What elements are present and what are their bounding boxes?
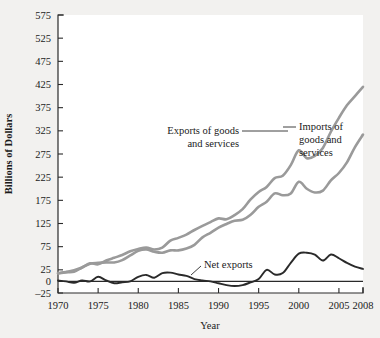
x-tick-label-1970: 1970 [48,300,69,311]
y-tick-label-275: 275 [35,149,51,160]
exports-imports-net-exports-line-chart: 57552547542537532527522517512575250–25 1… [0,0,380,338]
x-tick-label-1985: 1985 [168,300,189,311]
y-tick-label-75: 75 [41,241,52,252]
chart-figure: 57552547542537532527522517512575250–25 1… [0,0,380,338]
imports-annotation-line3: services [299,147,333,158]
y-tick-label-325: 325 [35,125,51,136]
x-tick-label-2008: 2008 [353,300,374,311]
x-tick-label-1990: 1990 [208,300,229,311]
y-tick-label-525: 525 [35,33,51,44]
x-tick-label-2005: 2005 [328,300,349,311]
y-tick-label-125: 125 [35,218,51,229]
exports-annotation-line2: and services [187,138,239,149]
x-tick-label-1975: 1975 [88,300,109,311]
y-tick-label-425: 425 [35,79,51,90]
exports-annotation-line1: Exports of goods [167,125,239,136]
x-tick-label-2000: 2000 [288,300,309,311]
imports-annotation-line1: Imports of [299,121,344,132]
net-exports-annotation: Net exports [204,259,253,270]
y-tick-label-–25: –25 [34,288,51,299]
y-tick-label-25: 25 [41,264,52,275]
y-tick-label-575: 575 [35,10,51,21]
x-tick-label-1995: 1995 [248,300,269,311]
x-axis-title: Year [200,320,220,331]
y-tick-label-475: 475 [35,56,51,67]
y-tick-label-175: 175 [35,195,51,206]
y-tick-label-375: 375 [35,102,51,113]
x-tick-label-1980: 1980 [128,300,149,311]
y-tick-label-0: 0 [46,276,51,287]
y-axis-title: Billions of Dollars [3,114,14,195]
y-tick-label-225: 225 [35,172,51,183]
imports-annotation-line2: goods and [299,134,343,145]
